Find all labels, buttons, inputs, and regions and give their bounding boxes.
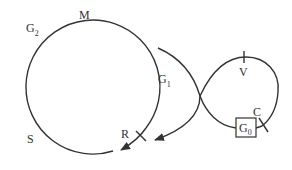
figure-eight-lower — [200, 96, 236, 128]
transfer-arc — [155, 48, 200, 140]
label-M: M — [79, 8, 90, 22]
label-G2: G2 — [26, 21, 39, 38]
label-V: V — [239, 65, 248, 79]
diagram-canvas: M G2 G1 S R V C G0 — [0, 0, 292, 170]
label-C: C — [253, 105, 261, 119]
label-S: S — [27, 132, 34, 146]
figure-eight-to-box — [256, 126, 262, 128]
tick-C — [259, 118, 268, 132]
tick-R — [136, 131, 146, 141]
label-R: R — [121, 127, 129, 141]
